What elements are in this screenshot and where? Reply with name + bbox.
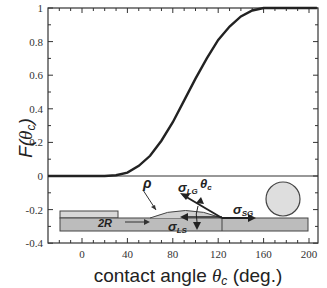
y-tick-label: -0.2: [26, 204, 43, 216]
sigma-lg-label: σLG: [178, 180, 198, 196]
y-tick-label: -0.4: [26, 237, 44, 249]
rho-label: ρ: [142, 175, 152, 191]
y-tick-label: 0.6: [29, 69, 43, 81]
x-tick-label: 160: [255, 248, 272, 260]
y-tick-label: 1: [38, 2, 44, 14]
two-r-label: 2R: [97, 217, 112, 229]
chart-canvas: -0.4-0.200.20.40.60.81 04080120160200 ρ …: [0, 0, 327, 288]
particle: [266, 182, 300, 216]
schematic-inset: ρ 2R σLG θc σSG σLS: [60, 175, 308, 235]
x-axis-title: contact angle θc (deg.): [94, 265, 283, 288]
x-tick-label: 120: [210, 248, 227, 260]
theta-c-label: θc: [200, 176, 212, 192]
y-tick-label: 0.4: [29, 103, 43, 115]
sigma-sg-label: σSG: [233, 202, 253, 218]
x-tick-label: 40: [122, 248, 134, 260]
x-tick-label: 80: [167, 248, 179, 260]
y-tick-label: 0.8: [29, 36, 43, 48]
y-axis-title: F(θc): [15, 118, 38, 158]
x-tick-label: 200: [301, 248, 318, 260]
rho-arrowhead-icon: [151, 205, 156, 210]
x-tick-label: 0: [79, 248, 85, 260]
f-theta-curve: [48, 8, 317, 176]
y-tick-label: 0: [38, 170, 44, 182]
theta-arrow-top-icon: [196, 197, 204, 204]
